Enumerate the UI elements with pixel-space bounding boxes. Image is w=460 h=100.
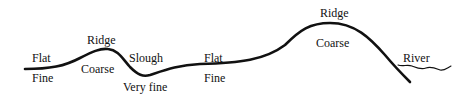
sediment-label-coarse-1: Coarse [81,63,114,75]
landform-label-slough: Slough [129,52,163,64]
landform-label-ridge-1: Ridge [87,34,116,46]
landform-label-ridge-2: Ridge [320,7,349,19]
sediment-label-fine-2: Fine [204,72,225,84]
sediment-label-fine-1: Fine [32,72,53,84]
landform-label-flat-2: Flat [204,52,223,64]
landform-label-flat-1: Flat [32,52,51,64]
sediment-label-very-fine: Very fine [123,81,167,93]
terrain-profile-line [0,0,460,100]
river-water-line [398,65,451,70]
landform-label-river: River [403,52,430,64]
terrain-cross-section-diagram: Flat Fine Ridge Coarse Slough Very fine … [0,0,460,100]
sediment-label-coarse-2: Coarse [316,37,349,49]
